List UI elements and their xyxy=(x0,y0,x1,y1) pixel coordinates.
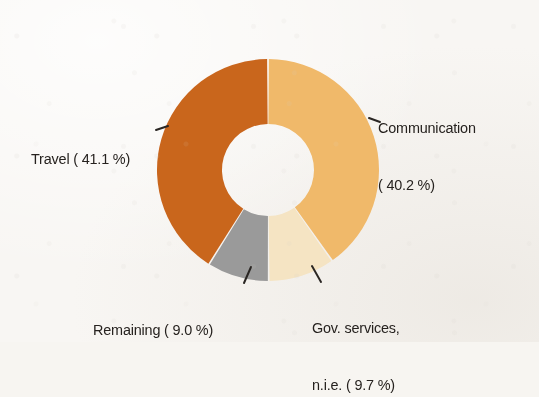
slice-label-gov-services-value: n.i.e. ( 9.7 %) xyxy=(312,376,400,395)
slice-label-remaining-text: Remaining ( 9.0 %) xyxy=(93,321,213,340)
slice-label-remaining: Remaining ( 9.0 %) xyxy=(93,283,213,378)
slice-label-communication: Communication ( 40.2 %) xyxy=(378,81,476,232)
slice-label-travel-text: Travel ( 41.1 %) xyxy=(31,150,130,169)
slice-label-gov-services: Gov. services, n.i.e. ( 9.7 %) xyxy=(312,281,400,397)
slice-label-communication-name: Communication xyxy=(378,119,476,138)
slice-label-travel: Travel ( 41.1 %) xyxy=(31,112,130,207)
slice-label-gov-services-name: Gov. services, xyxy=(312,319,400,338)
slice-label-communication-value: ( 40.2 %) xyxy=(378,176,476,195)
